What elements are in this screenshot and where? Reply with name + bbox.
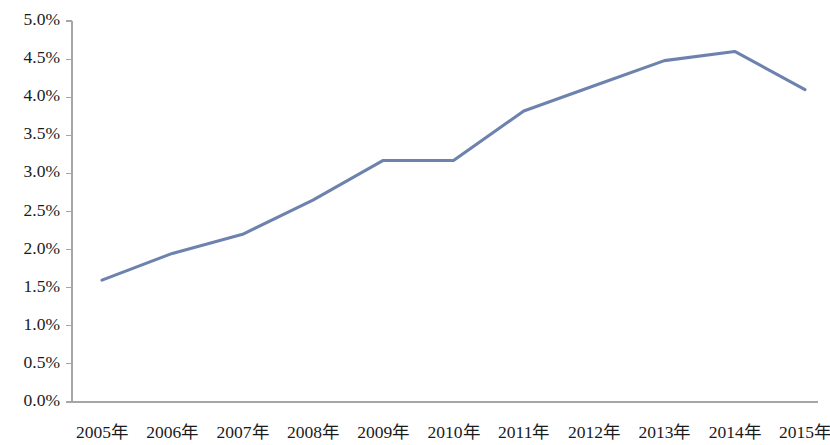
x-axis-tick-label: 2014年 — [709, 422, 761, 442]
x-axis-tick-label: 2009年 — [357, 422, 409, 442]
y-axis-tick-label: 4.0% — [24, 85, 60, 105]
y-axis-tick-label: 2.0% — [24, 238, 60, 258]
y-axis-tick-label: 5.0% — [24, 9, 60, 29]
x-axis-tick-label: 2008年 — [287, 422, 339, 442]
x-axis-tick-label: 2011年 — [498, 422, 549, 442]
chart-background — [0, 0, 830, 445]
x-axis-tick-label: 2007年 — [217, 422, 269, 442]
x-axis-tick-label: 2012年 — [568, 422, 620, 442]
x-axis-tick-label: 2015年 — [779, 422, 830, 442]
x-axis-tick-label: 2010年 — [428, 422, 480, 442]
line-chart: 0.0%0.5%1.0%1.5%2.0%2.5%3.0%3.5%4.0%4.5%… — [0, 0, 830, 445]
y-axis-tick-label: 4.5% — [24, 47, 60, 67]
y-axis-tick-label: 2.5% — [24, 200, 60, 220]
x-axis-tick-labels: 2005年2006年2007年2008年2009年2010年2011年2012年… — [76, 422, 830, 442]
y-axis-tick-label: 3.5% — [24, 123, 60, 143]
y-axis-tick-label: 0.0% — [24, 390, 60, 410]
x-axis-tick-label: 2013年 — [638, 422, 690, 442]
x-axis-tick-label: 2005年 — [76, 422, 128, 442]
chart-canvas: 0.0%0.5%1.0%1.5%2.0%2.5%3.0%3.5%4.0%4.5%… — [0, 0, 830, 445]
y-axis-tick-label: 1.5% — [24, 276, 60, 296]
y-axis-tick-label: 3.0% — [24, 161, 60, 181]
y-axis-tick-label: 0.5% — [24, 352, 60, 372]
x-axis-tick-label: 2006年 — [146, 422, 198, 442]
y-axis-tick-label: 1.0% — [24, 314, 60, 334]
